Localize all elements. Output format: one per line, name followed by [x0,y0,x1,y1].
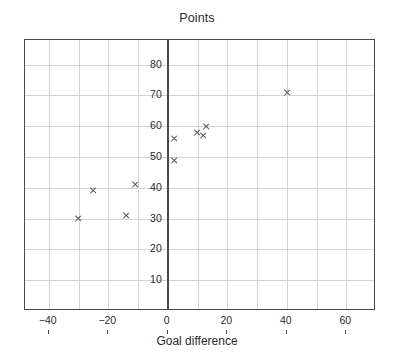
x-tick-label: 60 [339,314,351,326]
y-tick-label: 20 [150,242,162,254]
y-tick-label: 60 [150,119,162,131]
y-tick-label: 30 [150,212,162,224]
chart-figure: Points 1020304050607080 −40−200204060 Go… [0,0,394,360]
x-tick-label: 40 [280,314,292,326]
x-axis-tick-labels: −40−200204060 [24,314,375,330]
x-tick-label: −20 [98,314,116,326]
y-tick-label: 50 [150,150,162,162]
y-tick-label: 40 [150,181,162,193]
y-tick-label: 80 [150,58,162,70]
x-axis-title: Goal difference [0,334,394,348]
x-tick-label: 20 [220,314,232,326]
x-tick-label: −40 [39,314,57,326]
y-tick-label: 10 [150,273,162,285]
scatter-points [25,40,374,309]
chart-title: Points [0,11,394,25]
y-tick-label: 70 [150,88,162,100]
plot-area [24,39,375,310]
x-tick-label: 0 [164,314,170,326]
